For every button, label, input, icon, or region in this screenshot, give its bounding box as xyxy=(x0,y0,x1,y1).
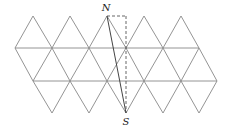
grid-edge xyxy=(126,16,144,48)
grid-edge xyxy=(163,48,181,81)
grid-edge xyxy=(199,48,217,81)
grid-edge xyxy=(15,16,33,48)
grid-edge xyxy=(33,48,52,81)
label-south: S xyxy=(123,116,130,127)
grid-edge xyxy=(144,16,163,48)
grid-edge xyxy=(70,48,89,81)
grid-edge xyxy=(181,48,199,81)
grid-edge xyxy=(126,81,144,113)
grid-edge xyxy=(52,16,70,48)
grid-edge xyxy=(52,81,70,113)
grid-edge xyxy=(89,16,107,48)
grid-edge xyxy=(181,81,199,113)
grid-edge xyxy=(52,48,70,81)
grid-edge xyxy=(144,81,163,113)
north-south-segment xyxy=(107,16,126,113)
grid-edge xyxy=(70,81,89,113)
grid-edge xyxy=(33,81,52,113)
grid-edge xyxy=(163,16,181,48)
grid-edge xyxy=(89,81,107,113)
grid-edge xyxy=(89,48,107,81)
grid-edge xyxy=(181,16,199,48)
grid-edge xyxy=(15,48,33,81)
label-north: N xyxy=(101,2,112,13)
grid-edge xyxy=(126,48,144,81)
icosahedron-net-diagram: N S xyxy=(0,0,227,133)
grid-edge xyxy=(199,81,217,113)
grid-edge xyxy=(33,16,52,48)
grid-edge xyxy=(70,16,89,48)
grid-edge xyxy=(163,81,181,113)
grid-edge xyxy=(144,48,163,81)
